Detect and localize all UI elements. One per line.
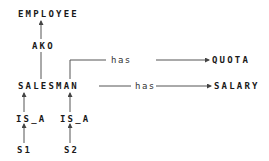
node-quota: QUOTA bbox=[212, 55, 250, 65]
node-s1: S1 bbox=[17, 145, 32, 155]
node-employee: EMPLOYEE bbox=[18, 9, 79, 19]
node-ako: AKO bbox=[32, 41, 55, 51]
edge-label-has-quota: has bbox=[111, 55, 132, 65]
node-s2: S2 bbox=[64, 145, 79, 155]
node-is-a-1: IS_A bbox=[16, 114, 46, 124]
edge-label-has-salary: has bbox=[135, 81, 156, 91]
node-salary: SALARY bbox=[214, 81, 260, 91]
node-is-a-2: IS_A bbox=[60, 114, 90, 124]
line-salesman-has-quota bbox=[70, 60, 106, 79]
node-salesman: SALESMAN bbox=[18, 81, 79, 91]
